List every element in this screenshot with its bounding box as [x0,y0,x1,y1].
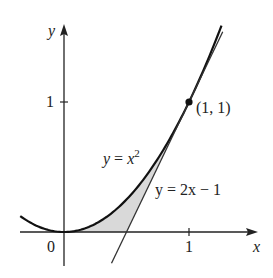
point-1-1 [185,98,192,105]
x-axis-label: x [252,238,260,255]
shaded-region [64,102,189,232]
tangent-line-label: y = 2x − 1 [155,181,221,199]
plot-area: y x 0 1 1 (1, 1) y = x2 y = 2x − 1 [0,0,273,278]
tangent-line [112,32,223,263]
x-tick-label-1: 1 [185,238,193,255]
parabola-label: y = x2 [101,147,140,168]
y-axis-label: y [46,22,56,40]
origin-label: 0 [47,238,55,255]
y-tick-label-1: 1 [46,93,54,110]
point-label: (1, 1) [196,99,231,117]
parabola-curve [20,26,221,232]
figure: y x 0 1 1 (1, 1) y = x2 y = 2x − 1 [0,0,273,278]
